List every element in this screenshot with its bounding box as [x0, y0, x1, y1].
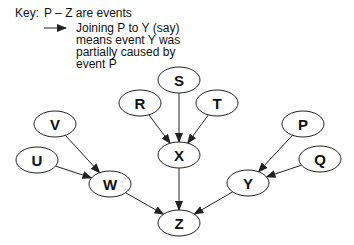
node-label: R: [135, 95, 146, 112]
key-events-line: P – Z are events: [44, 6, 132, 20]
node-p: P: [282, 111, 324, 137]
node-w: W: [89, 171, 131, 197]
node-u: U: [16, 147, 58, 173]
node-label: S: [174, 72, 184, 89]
edge-w-to-z: [126, 193, 164, 214]
node-t: T: [196, 90, 238, 116]
node-label: V: [50, 116, 60, 133]
node-x: X: [158, 142, 200, 168]
nodes: SRTXVUWPQYZ: [16, 67, 341, 236]
node-v: V: [34, 111, 76, 137]
node-label: X: [174, 147, 184, 164]
node-q: Q: [299, 146, 341, 172]
edge-t-to-x: [188, 115, 209, 143]
node-label: Y: [243, 175, 253, 192]
node-s: S: [158, 67, 200, 93]
node-y: Y: [227, 170, 269, 196]
node-label: Q: [314, 151, 326, 168]
key-prefix: Key:: [15, 6, 39, 20]
edge-y-to-z: [194, 192, 232, 214]
node-label: P: [298, 116, 308, 133]
edge-u-to-w: [56, 166, 92, 178]
node-r: R: [119, 90, 161, 116]
node-label: Z: [174, 215, 183, 232]
node-label: T: [212, 95, 221, 112]
key-desc-line-4: event P: [76, 57, 117, 71]
edge-v-to-w: [65, 135, 99, 172]
node-z: Z: [158, 210, 200, 236]
causal-diagram: Key: P – Z are events Joining P to Y (sa…: [0, 0, 354, 245]
edge-r-to-x: [149, 115, 170, 143]
edge-p-to-y: [258, 135, 292, 171]
node-label: U: [32, 152, 43, 169]
edge-q-to-y: [266, 165, 301, 177]
node-label: W: [103, 176, 118, 193]
key-legend: Key: P – Z are events Joining P to Y (sa…: [15, 6, 180, 71]
